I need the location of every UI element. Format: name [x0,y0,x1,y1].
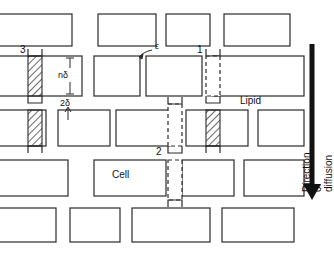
pathway-segment-hatched [206,110,220,146]
pathway-segment-hatched [28,56,42,96]
pathway-bracket-cap [28,96,42,103]
brick [224,14,290,46]
brick [132,208,210,242]
pathway-bracket-cap [168,146,182,153]
brick [98,14,156,46]
brick [182,160,234,196]
pathway-bracket-cap [28,146,42,153]
brick [116,110,170,146]
label-cell: Cell [112,170,129,180]
brick [244,160,304,196]
brick [94,160,166,196]
brick [212,56,304,96]
pathway-bracket-cap [168,200,182,207]
brick [0,14,72,46]
pathway-bracket-cap [206,49,220,56]
pathway-bracket-cap [168,97,182,104]
brick [258,110,304,146]
brick [58,110,110,146]
diagram-canvas [0,0,334,259]
brick-layer [0,14,304,242]
label-direction-of-diffusion: Direction of diffusion [301,153,334,192]
label-path-3: 3 [20,45,26,55]
pathway-bracket-cap [28,49,42,56]
label-dimension-2-delta: 2δ [60,99,70,108]
diffusion-brick-diagram: 3 1 2 nδ 2δ ε Lipid Cell Direction of di… [0,0,334,259]
brick [0,160,68,196]
brick [166,14,210,46]
label-epsilon: ε [155,42,159,51]
brick [146,56,202,96]
brick [222,208,294,242]
pathway-segment-dashed [168,104,182,146]
pathway-segment-hatched [28,110,42,146]
label-dimension-n-delta: nδ [58,71,68,80]
brick [94,56,140,96]
pathway-bracket-cap [206,96,220,103]
brick [0,208,56,242]
pathway-segment-dashed [168,160,182,200]
pathway-segment-dashed [206,56,220,96]
label-lipid: Lipid [240,96,261,106]
label-path-2: 2 [156,147,162,157]
brick [70,208,120,242]
label-path-1: 1 [197,45,203,55]
pathway-bracket-cap [206,146,220,153]
